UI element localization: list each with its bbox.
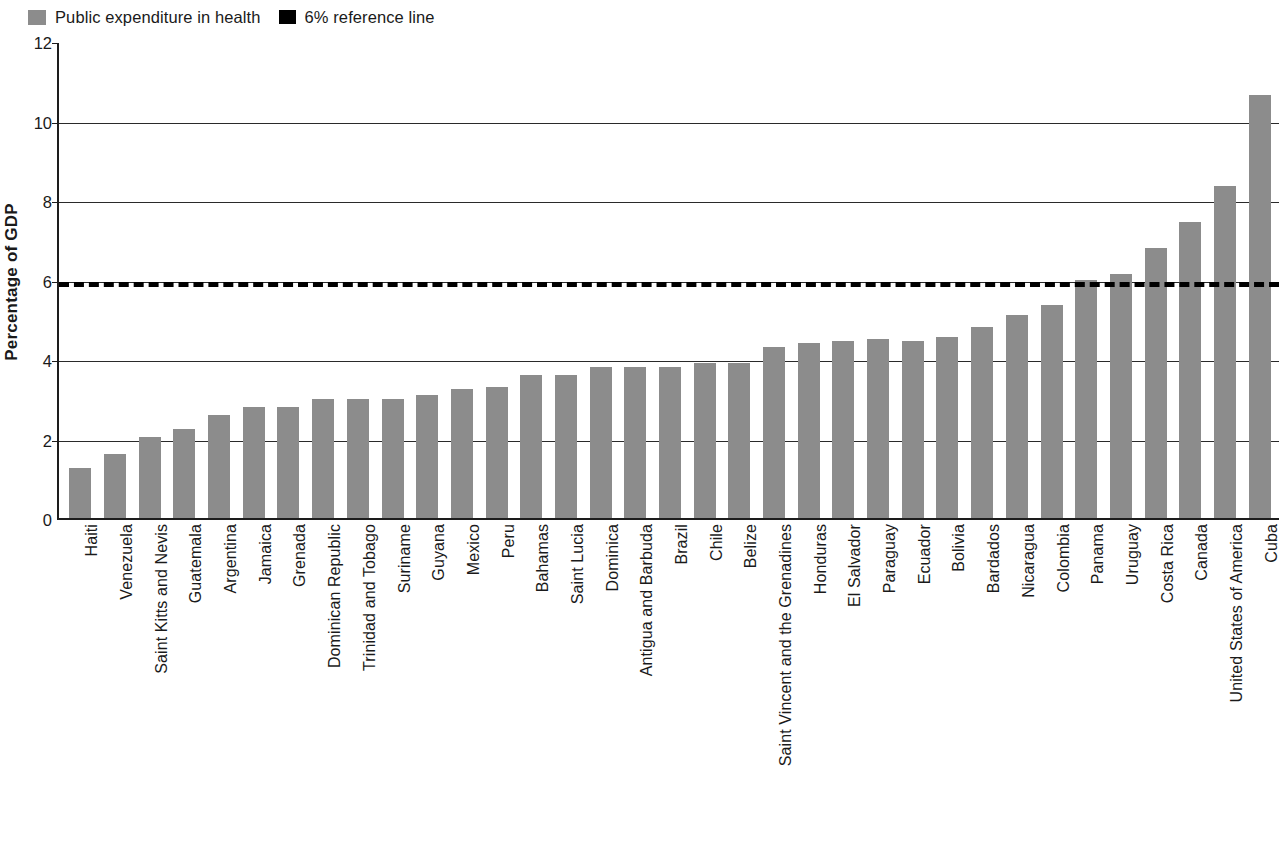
bar: [69, 468, 91, 518]
y-axis-tick-label: 12: [34, 35, 52, 52]
legend-swatch-icon: [28, 10, 46, 25]
x-axis-tick-label: Venezuela: [119, 524, 135, 600]
x-axis-tick-label-text: Bahamas: [535, 524, 551, 592]
y-axis-tick-label: 6: [43, 273, 52, 290]
y-axis-tick-label: 0: [43, 512, 52, 529]
y-axis-tick-label: 2: [43, 432, 52, 449]
x-axis-tick-label-text: Argentina: [223, 524, 239, 593]
bar: [694, 363, 716, 518]
bar: [590, 367, 612, 518]
bar: [763, 347, 785, 518]
x-axis-tick-label: Suriname: [397, 524, 413, 593]
bar: [520, 375, 542, 518]
x-axis-tick-label-text: Nicaragua: [1021, 524, 1037, 598]
bar-series: [59, 43, 1279, 518]
x-axis-tick-label-text: Suriname: [397, 524, 413, 593]
x-axis-tick-label-text: Haiti: [84, 524, 100, 557]
bar: [104, 454, 126, 518]
x-axis-tick-label-text: El Salvador: [847, 524, 863, 607]
bar: [1075, 280, 1097, 519]
x-axis-tick-label-text: Saint Vincent and the Grenadines: [778, 524, 794, 766]
x-axis-tick-label-text: Saint Kitts and Nevis: [154, 524, 170, 674]
x-axis-tick-label-text: Bardados: [986, 524, 1002, 593]
x-axis-tick-label-text: Trinidad and Tobago: [362, 524, 378, 671]
x-axis-tick-label: Costa Rica: [1160, 524, 1176, 603]
x-axis-tick-labels: HaitiVenezuelaSaint Kitts and NevisGuate…: [57, 524, 1279, 824]
bar: [624, 367, 646, 518]
legend-swatch-icon: [279, 10, 296, 24]
x-axis-tick-label-text: Dominican Republic: [327, 524, 343, 668]
x-axis-tick-label-text: Brazil: [674, 524, 690, 565]
x-axis-tick-label: Honduras: [813, 524, 829, 594]
x-axis-tick-label: Brazil: [674, 524, 690, 565]
bar: [867, 339, 889, 518]
x-axis-tick-label-text: Chile: [709, 524, 725, 561]
x-axis-tick-label: Ecuador: [917, 524, 933, 584]
x-axis-tick-label: Guatemala: [188, 524, 204, 603]
x-axis-tick-label: Colombia: [1056, 524, 1072, 592]
bar: [347, 399, 369, 518]
bar: [971, 327, 993, 518]
x-axis-tick-label: Argentina: [223, 524, 239, 593]
x-axis-tick-label: Bahamas: [535, 524, 551, 592]
x-axis-tick-label-text: Venezuela: [119, 524, 135, 600]
bar: [1179, 222, 1201, 518]
x-axis-tick-label-text: Paraguay: [882, 524, 898, 593]
bar: [208, 415, 230, 518]
bar: [173, 429, 195, 518]
x-axis-tick-label: Dominica: [605, 524, 621, 592]
x-axis-tick-label: Paraguay: [882, 524, 898, 593]
bar: [243, 407, 265, 518]
bar: [659, 367, 681, 518]
chart-legend: Public expenditure in health 6% referenc…: [28, 4, 453, 30]
x-axis-tick-label: Dominican Republic: [327, 524, 343, 668]
x-axis-tick-label: Jamaica: [258, 524, 274, 584]
y-axis-tick-mark: [52, 123, 59, 124]
x-axis-tick-label: Mexico: [466, 524, 482, 575]
y-axis-title-text: Percentage of GDP: [2, 203, 22, 360]
bar: [902, 341, 924, 518]
bar: [555, 375, 577, 518]
x-axis-tick-label: Haiti: [84, 524, 100, 557]
y-axis-tick-label: 8: [43, 194, 52, 211]
x-axis-tick-label-text: Ecuador: [917, 524, 933, 584]
x-axis-tick-label-text: Guatemala: [188, 524, 204, 603]
x-axis-tick-label-text: Antigua and Barbuda: [639, 524, 655, 676]
y-axis-tick-mark: [52, 43, 59, 44]
bar: [1214, 186, 1236, 518]
bar: [486, 387, 508, 518]
x-axis-tick-label-text: Peru: [501, 524, 517, 558]
bar: [139, 437, 161, 518]
x-axis-tick-label: Antigua and Barbuda: [639, 524, 655, 676]
x-axis-tick-label: Saint Kitts and Nevis: [154, 524, 170, 674]
x-axis-tick-label: Panama: [1090, 524, 1106, 584]
bar: [832, 341, 854, 518]
x-axis-tick-label-text: Grenada: [292, 524, 308, 587]
x-axis-tick-label: Guyana: [431, 524, 447, 581]
bar: [1145, 248, 1167, 518]
x-axis-tick-label: Cuba: [1264, 524, 1280, 563]
x-axis-tick-label-text: Honduras: [813, 524, 829, 594]
y-axis-tick-labels: 024681012: [22, 43, 52, 520]
x-axis-tick-label-text: Jamaica: [258, 524, 274, 584]
x-axis-tick-label: United States of America: [1229, 524, 1245, 703]
bar: [451, 389, 473, 518]
x-axis-tick-label: Trinidad and Tobago: [362, 524, 378, 671]
y-axis-tick-label: 4: [43, 353, 52, 370]
bar: [798, 343, 820, 518]
y-axis-tick-mark: [52, 361, 59, 362]
x-axis-tick-label-text: Cuba: [1264, 524, 1280, 563]
y-axis-tick-mark: [52, 282, 59, 283]
bar: [382, 399, 404, 518]
x-axis-tick-label-text: Guyana: [431, 524, 447, 581]
x-axis-tick-label-text: Uruguay: [1125, 524, 1141, 585]
x-axis-tick-label: Belize: [743, 524, 759, 568]
x-axis-tick-label: Nicaragua: [1021, 524, 1037, 598]
legend-entry-series: Public expenditure in health: [28, 8, 279, 27]
bar: [416, 395, 438, 518]
x-axis-tick-label-text: Bolivia: [951, 524, 967, 572]
bar: [1249, 95, 1271, 518]
y-axis-title: Percentage of GDP: [0, 43, 24, 520]
x-axis-tick-label-text: Panama: [1090, 524, 1106, 584]
x-axis-tick-label: Peru: [501, 524, 517, 558]
